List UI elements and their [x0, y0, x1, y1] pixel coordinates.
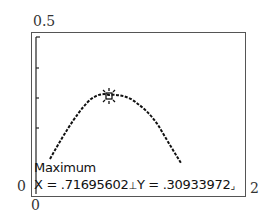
ymin-label: 0	[31, 198, 40, 212]
y-readout: Y = .30933972	[137, 177, 231, 192]
xmin-label: 0	[17, 179, 26, 193]
ymax-label: 0.5	[33, 14, 55, 28]
xmax-label: 2	[250, 181, 259, 195]
x-readout: X = .71695602	[34, 177, 128, 192]
function-curve	[50, 94, 181, 163]
coordinates-readout: X = .71695602⊥Y = .30933972⌟	[34, 178, 235, 193]
maximum-label: Maximum	[34, 161, 96, 175]
